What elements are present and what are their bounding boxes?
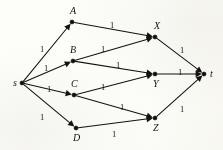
graph-node-Y (153, 72, 157, 76)
graph-edge-Z-t (157, 79, 199, 117)
edge-capacity-label-s-A: 1 (40, 45, 44, 54)
edge-capacity-label-B-X: 1 (101, 45, 105, 54)
edge-capacity-label-X-t: 1 (180, 46, 184, 55)
graph-edge-C-Z (76, 96, 148, 116)
graph-node-C (72, 93, 76, 97)
graph-edge-B-X (75, 39, 148, 60)
edge-capacity-label-s-D: 1 (40, 113, 44, 122)
graph-edge-X-t (157, 38, 199, 69)
graph-node-Z (153, 116, 157, 120)
graph-edge-B-Y (75, 61, 148, 73)
graph-node-s (20, 81, 24, 85)
edge-capacity-label-B-Y: 1 (116, 61, 120, 70)
edges-layer (24, 22, 203, 127)
arrow-head-icon-s-A (64, 24, 70, 31)
edge-capacity-label-s-C: 1 (47, 85, 51, 94)
flow-network-figure: 1111111111111sABCDXYZt (0, 0, 223, 150)
edge-capacity-label-A-X: 1 (110, 21, 114, 30)
graph-edge-C-Y (76, 76, 148, 95)
edge-capacity-label-Y-t: 1 (178, 68, 182, 77)
graph-node-B (71, 59, 75, 63)
graph-node-t (202, 72, 206, 76)
node-label-B: B (70, 45, 76, 55)
edge-capacity-label-C-Z: 1 (120, 103, 124, 112)
node-label-s: s (13, 78, 17, 88)
node-label-Y: Y (153, 79, 159, 89)
graph-edge-s-C (24, 84, 67, 94)
node-label-t: t (210, 69, 213, 79)
arrow-head-icon-B-X (146, 36, 153, 42)
graph-node-D (74, 126, 78, 130)
edge-capacity-label-D-Z: 1 (112, 130, 116, 139)
graph-node-X (153, 35, 157, 39)
node-label-X: X (154, 21, 160, 31)
node-label-D: D (73, 133, 80, 143)
node-label-Z: Z (153, 123, 159, 133)
edge-capacity-label-Z-t: 1 (180, 105, 184, 114)
edge-capacity-label-C-Y: 1 (101, 83, 105, 92)
arrow-head-icon-s-C (65, 90, 72, 96)
node-label-A: A (70, 6, 76, 16)
graph-node-A (70, 20, 74, 24)
node-label-C: C (71, 79, 78, 89)
edge-capacity-label-s-B: 1 (44, 64, 48, 73)
graph-edge-D-Z (78, 119, 148, 128)
